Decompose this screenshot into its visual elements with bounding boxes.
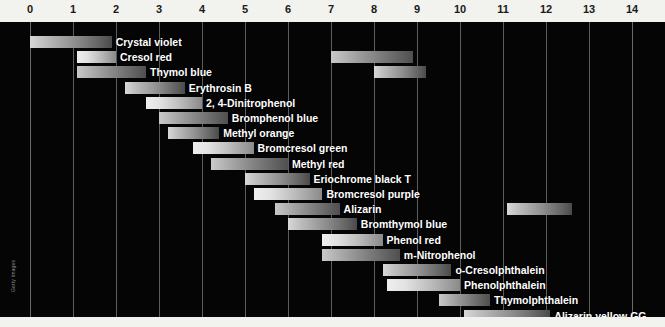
indicator-range-bar bbox=[30, 36, 112, 48]
ph-indicator-chart: 01234567891011121314 Crystal violetCreso… bbox=[0, 0, 665, 327]
indicator-range-bar bbox=[331, 51, 413, 63]
x-tick-label: 3 bbox=[156, 3, 162, 15]
indicator-range-bar bbox=[77, 66, 146, 78]
x-tick-label: 8 bbox=[371, 3, 377, 15]
plot-area: Crystal violetCresol redThymol blueEryth… bbox=[0, 22, 665, 317]
indicator-row: Eriochrome black T bbox=[0, 172, 665, 187]
indicator-range-bar bbox=[288, 218, 357, 230]
indicator-name-label: Cresol red bbox=[116, 50, 172, 65]
indicator-row: Bromcresol green bbox=[0, 141, 665, 156]
indicator-range-bar bbox=[374, 66, 426, 78]
indicator-range-bar bbox=[125, 82, 185, 94]
indicator-range-bar bbox=[211, 158, 288, 170]
indicator-row: Methyl red bbox=[0, 157, 665, 172]
x-tick-label: 2 bbox=[113, 3, 119, 15]
indicator-range-bar bbox=[275, 203, 340, 215]
indicator-row: Erythrosin B bbox=[0, 81, 665, 96]
indicator-name-label: Methyl red bbox=[288, 157, 345, 172]
indicator-name-label: Phenol red bbox=[383, 233, 441, 248]
x-tick-label: 14 bbox=[626, 3, 638, 15]
indicator-name-label: Phenolphthalein bbox=[460, 278, 546, 293]
indicator-row: Alizarin yellow GG bbox=[0, 309, 665, 317]
x-tick-label: 7 bbox=[328, 3, 334, 15]
indicator-name-label: Bromcresol green bbox=[254, 141, 348, 156]
indicator-range-bar bbox=[383, 264, 452, 276]
indicator-row: Crystal violet bbox=[0, 35, 665, 50]
indicator-name-label: Thymol blue bbox=[146, 65, 212, 80]
indicator-row: Alizarin bbox=[0, 202, 665, 217]
indicator-range-bar bbox=[507, 203, 572, 215]
indicator-range-bar bbox=[322, 234, 382, 246]
indicator-row: Thymolphthalein bbox=[0, 293, 665, 308]
x-tick-label: 12 bbox=[540, 3, 552, 15]
indicator-name-label: Bromphenol blue bbox=[228, 111, 318, 126]
indicator-range-bar bbox=[387, 279, 460, 291]
x-tick-label: 6 bbox=[285, 3, 291, 15]
bottom-margin-strip bbox=[0, 317, 665, 327]
indicator-row: Bromcresol purple bbox=[0, 187, 665, 202]
indicator-range-bar bbox=[464, 310, 550, 317]
indicator-row: Cresol red bbox=[0, 50, 665, 65]
credit-watermark: Getty Images bbox=[10, 230, 16, 292]
x-tick-label: 4 bbox=[199, 3, 205, 15]
x-tick-label: 13 bbox=[583, 3, 595, 15]
x-tick-label: 11 bbox=[497, 3, 509, 15]
x-tick-label: 0 bbox=[27, 3, 33, 15]
indicator-name-label: Alizarin yellow GG bbox=[550, 309, 646, 317]
indicator-range-bar bbox=[439, 294, 491, 306]
indicator-row: Thymol blue bbox=[0, 65, 665, 80]
x-axis-tick-strip: 01234567891011121314 bbox=[0, 0, 665, 22]
indicator-row: Methyl orange bbox=[0, 126, 665, 141]
indicator-row: o-Cresolphthalein bbox=[0, 263, 665, 278]
indicator-name-label: Eriochrome black T bbox=[310, 172, 411, 187]
indicator-name-label: Crystal violet bbox=[112, 35, 182, 50]
indicator-name-label: 2, 4-Dinitrophenol bbox=[202, 96, 295, 111]
indicator-range-bar bbox=[159, 112, 228, 124]
x-tick-label: 5 bbox=[242, 3, 248, 15]
indicator-name-label: Methyl orange bbox=[219, 126, 294, 141]
indicator-name-label: Alizarin bbox=[340, 202, 382, 217]
indicator-name-label: o-Cresolphthalein bbox=[451, 263, 544, 278]
indicator-range-bar bbox=[146, 97, 202, 109]
indicator-range-bar bbox=[168, 127, 220, 139]
indicator-range-bar bbox=[322, 249, 399, 261]
indicator-name-label: Bromcresol purple bbox=[322, 187, 419, 202]
indicator-row: m-Nitrophenol bbox=[0, 248, 665, 263]
indicator-row: Bromthymol blue bbox=[0, 217, 665, 232]
indicator-row: Phenolphthalein bbox=[0, 278, 665, 293]
indicator-name-label: Bromthymol blue bbox=[357, 217, 447, 232]
indicator-row: Bromphenol blue bbox=[0, 111, 665, 126]
x-tick-label: 1 bbox=[70, 3, 76, 15]
indicator-name-label: Thymolphthalein bbox=[490, 293, 578, 308]
indicator-range-bar bbox=[193, 142, 253, 154]
x-tick-label: 10 bbox=[454, 3, 466, 15]
indicator-name-label: m-Nitrophenol bbox=[400, 248, 476, 263]
x-tick-label: 9 bbox=[414, 3, 420, 15]
indicator-range-bar bbox=[77, 51, 116, 63]
indicator-row: Phenol red bbox=[0, 233, 665, 248]
indicator-name-label: Erythrosin B bbox=[185, 81, 252, 96]
plot-inner: Crystal violetCresol redThymol blueEryth… bbox=[0, 22, 665, 317]
indicator-row: 2, 4-Dinitrophenol bbox=[0, 96, 665, 111]
indicator-range-bar bbox=[254, 188, 323, 200]
indicator-range-bar bbox=[245, 173, 310, 185]
